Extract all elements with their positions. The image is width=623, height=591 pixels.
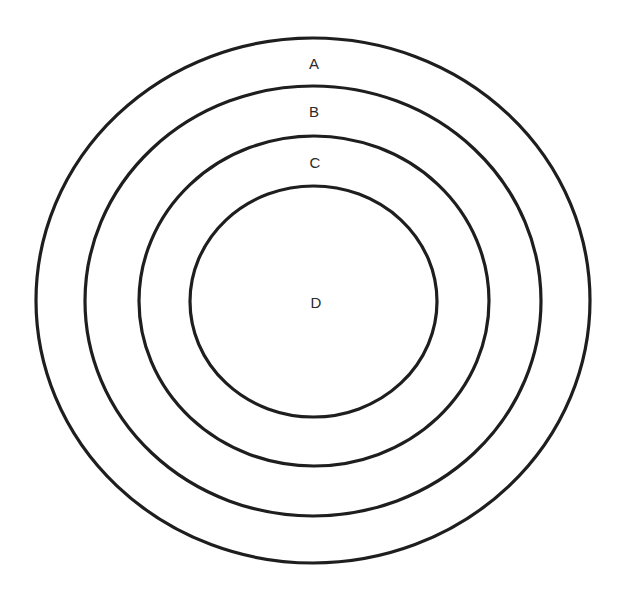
label-c: C [310,154,321,171]
concentric-circles-diagram: A B C D [0,0,623,591]
label-d: D [311,294,322,311]
label-b: B [309,103,319,120]
label-a: A [309,55,319,72]
